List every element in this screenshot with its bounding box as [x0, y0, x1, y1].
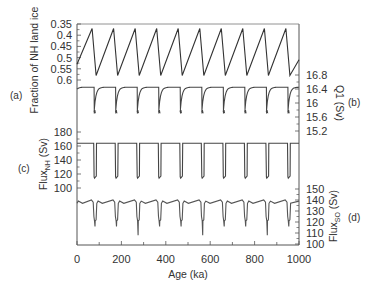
y-tick-label-a: 0.45: [51, 40, 72, 52]
y-tick-label-a: 0.55: [51, 63, 72, 75]
y-tick-label-b: 16.8: [306, 69, 327, 81]
y-tick-label-b: 15.2: [306, 125, 327, 137]
series: [77, 29, 299, 236]
axes: 020040060080010000.350.40.450.50.550.615…: [51, 18, 328, 265]
y-axis-label-b: Q1 (Sv): [334, 85, 346, 121]
x-tick-label: 1000: [287, 253, 311, 265]
y-tick-label-b: 16.4: [306, 83, 327, 95]
y-tick-label-a: 0.5: [57, 52, 72, 64]
y-tick-label-c: 100: [54, 182, 72, 194]
series-flux-nh: [77, 143, 299, 178]
y-tick-label-d: 130: [306, 205, 324, 217]
panel-label-a: (a): [10, 90, 22, 101]
y-tick-label-d: 120: [306, 216, 324, 228]
multi-panel-chart: 020040060080010000.350.40.450.50.550.615…: [0, 0, 370, 286]
y-axis-label-a: Fraction of NH land ice: [28, 6, 40, 113]
y-tick-label-c: 160: [54, 140, 72, 152]
y-tick-label-c: 140: [54, 154, 72, 166]
x-tick-label: 600: [201, 253, 219, 265]
y-tick-label-b: 15.6: [306, 111, 327, 123]
x-tick-label: 0: [74, 253, 80, 265]
series-q1: [77, 87, 299, 113]
y-tick-label-d: 150: [306, 183, 324, 195]
y-tick-label-c: 180: [54, 126, 72, 138]
y-tick-label-a: 0.35: [51, 18, 72, 30]
x-tick-label: 800: [245, 253, 263, 265]
y-tick-label-d: 100: [306, 238, 324, 250]
y-tick-label-a: 0.6: [57, 74, 72, 86]
x-tick-label: 200: [112, 253, 130, 265]
y-tick-label-b: 16: [306, 97, 318, 109]
x-axis-label: Age (ka): [168, 268, 208, 280]
panel-label-c: (c): [18, 163, 30, 174]
series-flux-so: [77, 200, 299, 235]
y-tick-label-a: 0.4: [57, 29, 72, 41]
series-nh-ice: [77, 29, 299, 76]
y-tick-label-c: 120: [54, 168, 72, 180]
x-tick-label: 400: [157, 253, 175, 265]
y-axis-label-d: FluxSO (Sv): [327, 190, 341, 242]
y-tick-label-d: 140: [306, 194, 324, 206]
panel-label-b: (b): [348, 97, 360, 108]
panel-label-d: (d): [348, 212, 360, 223]
y-axis-label-c: FluxNH (Sv): [37, 138, 51, 190]
y-tick-label-d: 110: [306, 227, 324, 239]
